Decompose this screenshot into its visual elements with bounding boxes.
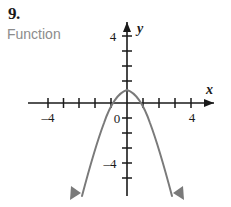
curve-left-arrow-icon — [70, 186, 81, 200]
y-axis-arrow-icon — [123, 22, 131, 32]
origin-label: 0 — [114, 111, 121, 126]
x-tick-label-4: 4 — [189, 110, 196, 125]
y-tick-label-neg4: –4 — [103, 156, 118, 171]
x-tick-label-neg4: –4 — [41, 110, 56, 125]
exercise-card: 9. Function — [0, 0, 231, 207]
x-axis-arrow-icon — [204, 99, 214, 107]
parabola-graph: –4 0 4 4 –4 y x — [0, 0, 231, 207]
y-tick-label-4: 4 — [110, 29, 117, 44]
y-axis-label: y — [135, 21, 144, 36]
curve-right-arrow-icon — [173, 186, 184, 200]
x-axis-label: x — [205, 82, 213, 97]
